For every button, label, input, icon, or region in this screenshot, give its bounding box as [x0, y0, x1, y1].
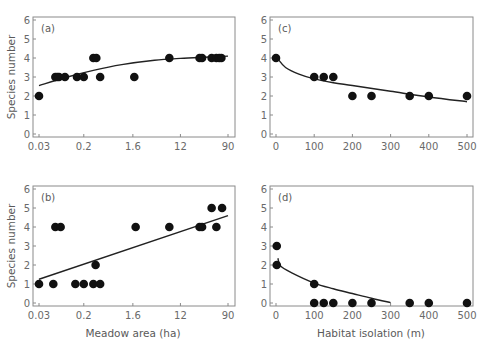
- x-tick-label: 100: [305, 310, 324, 321]
- y-tick-label: 1: [24, 279, 30, 290]
- data-point: [348, 299, 357, 308]
- data-point: [207, 204, 216, 213]
- y-tick-label: 4: [261, 222, 267, 233]
- data-point: [310, 299, 319, 308]
- y-tick-label: 2: [24, 260, 30, 271]
- data-point: [56, 223, 65, 232]
- x-tick-label: 1.6: [125, 141, 141, 152]
- x-tick-label: 90: [222, 310, 235, 321]
- y-tick-label: 5: [24, 203, 30, 214]
- panel-c-isolation-vs-species: 01234560100200300400500(c): [261, 15, 477, 153]
- data-point: [272, 54, 281, 63]
- x-tick-label: 100: [305, 141, 324, 152]
- y-tick-label: 4: [24, 222, 30, 233]
- y-tick-label: 5: [261, 203, 267, 214]
- data-point: [35, 92, 44, 101]
- y-tick-label: 1: [24, 110, 30, 121]
- y-tick-label: 5: [24, 34, 30, 45]
- data-point: [92, 54, 101, 63]
- data-point: [96, 280, 105, 289]
- x-tick-label: 12: [174, 141, 187, 152]
- x-tick-label: 200: [343, 141, 362, 152]
- y-tick-label: 0: [24, 298, 30, 309]
- data-point: [329, 73, 338, 82]
- data-point: [165, 54, 174, 63]
- panel-label: (c): [278, 23, 291, 34]
- x-tick-label: 300: [381, 141, 400, 152]
- y-tick-label: 0: [24, 129, 30, 140]
- panel-a-meadow-area-vs-species: 01234560.030.21.61290(a): [24, 15, 235, 153]
- x-tick-label: 300: [381, 310, 400, 321]
- y-tick-label: 4: [24, 53, 30, 64]
- x-tick-label: 400: [419, 141, 438, 152]
- data-point: [405, 92, 414, 101]
- y-tick-label: 4: [261, 53, 267, 64]
- x-tick-label: 500: [457, 310, 476, 321]
- data-point: [79, 280, 88, 289]
- x-tick-label: 200: [343, 310, 362, 321]
- figure: 01234560.030.21.61290(a) 01234560.030.21…: [0, 0, 488, 343]
- y-tick-label: 2: [24, 91, 30, 102]
- y-tick-label: 0: [261, 129, 267, 140]
- x-tick-label: 500: [457, 141, 476, 152]
- data-point: [217, 54, 226, 63]
- y-tick-label: 2: [261, 91, 267, 102]
- data-point: [319, 299, 328, 308]
- x-tick-label: 0.03: [28, 141, 50, 152]
- y-tick-label: 1: [261, 110, 267, 121]
- data-point: [329, 299, 338, 308]
- y-tick-label: 3: [24, 72, 30, 83]
- y-tick-label: 6: [24, 15, 30, 26]
- x-axis-label-right: Habitat isolation (m): [317, 327, 425, 339]
- panel-d-isolation-vs-species: 01234560100200300400500(d): [261, 184, 477, 322]
- data-point: [272, 261, 281, 270]
- data-point: [131, 223, 140, 232]
- data-point: [367, 92, 376, 101]
- x-tick-label: 0.2: [76, 310, 92, 321]
- data-point: [165, 223, 174, 232]
- data-point: [348, 92, 357, 101]
- fit-line: [278, 258, 391, 302]
- y-tick-label: 1: [261, 279, 267, 290]
- data-point: [91, 261, 100, 270]
- y-tick-label: 6: [261, 184, 267, 195]
- y-axis-label-top: Species number: [5, 34, 17, 119]
- data-point: [198, 223, 207, 232]
- data-point: [79, 73, 88, 82]
- data-point: [367, 299, 376, 308]
- plot-frame: [270, 186, 473, 306]
- x-axis-label-left: Meadow area (ha): [85, 327, 180, 339]
- y-tick-label: 6: [261, 15, 267, 26]
- data-point: [463, 299, 472, 308]
- x-tick-label: 12: [174, 310, 187, 321]
- data-point: [130, 73, 139, 82]
- y-tick-label: 3: [24, 241, 30, 252]
- data-point: [272, 242, 281, 251]
- panel-label: (d): [278, 192, 292, 203]
- panel-label: (a): [41, 23, 55, 34]
- data-point: [61, 73, 70, 82]
- plot-frame: [270, 17, 473, 137]
- y-tick-label: 6: [24, 184, 30, 195]
- data-point: [405, 299, 414, 308]
- y-tick-label: 2: [261, 260, 267, 271]
- x-tick-label: 1.6: [125, 310, 141, 321]
- data-point: [463, 92, 472, 101]
- y-tick-label: 0: [261, 298, 267, 309]
- data-point: [425, 299, 434, 308]
- y-tick-label: 3: [261, 72, 267, 83]
- y-tick-label: 5: [261, 34, 267, 45]
- panel-b-meadow-area-vs-species: 01234560.030.21.61290(b): [24, 184, 235, 322]
- data-point: [310, 73, 319, 82]
- data-point: [310, 280, 319, 289]
- x-tick-label: 400: [419, 310, 438, 321]
- data-point: [425, 92, 434, 101]
- x-tick-label: 90: [222, 141, 235, 152]
- data-point: [319, 73, 328, 82]
- y-tick-label: 3: [261, 241, 267, 252]
- x-tick-label: 0.2: [76, 141, 92, 152]
- x-tick-label: 0: [273, 141, 279, 152]
- x-tick-label: 0.03: [28, 310, 50, 321]
- data-point: [71, 280, 80, 289]
- data-point: [218, 204, 227, 213]
